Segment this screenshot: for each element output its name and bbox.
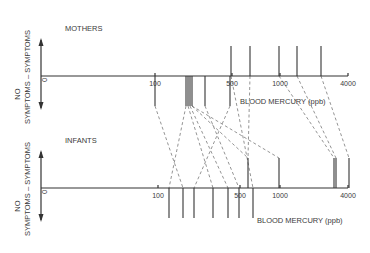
pair-link-dashed (192, 106, 248, 158)
tick-label: 0 (40, 78, 49, 82)
tick-label: 100 (152, 192, 164, 199)
pair-link-dashed (321, 76, 349, 158)
tick-label: 4000 (340, 80, 356, 87)
infants-y-label-line1: NO (13, 200, 22, 211)
pair-link-dashed (155, 106, 183, 188)
mothers-y-label-line1: NO (13, 88, 22, 99)
tick-label: 1000 (272, 192, 288, 199)
mother-infant-mercury-diagram: SYMPTOMS – SYMPTOMSNOMOTHERS010050010004… (0, 0, 370, 253)
pair-link-dashed (248, 76, 250, 158)
mothers-axis-title: BLOOD MERCURY (ppb) (240, 97, 326, 106)
pair-link-dashed (192, 106, 279, 158)
pair-link-dashed (205, 106, 239, 188)
tick-label: 500 (226, 80, 238, 87)
arrow-up-icon (39, 150, 44, 158)
tick-label: 1000 (272, 80, 288, 87)
tick-label: 0 (40, 190, 49, 194)
tick-label: 4000 (340, 192, 356, 199)
arrow-up-icon (39, 38, 44, 46)
diagram-canvas: SYMPTOMS – SYMPTOMSNOMOTHERS010050010004… (0, 0, 370, 253)
infants-title: INFANTS (65, 136, 97, 145)
pair-link-dashed (279, 76, 334, 158)
arrow-down-icon (39, 214, 44, 222)
pair-link-dashed (169, 106, 186, 188)
pair-link-dashed (297, 76, 336, 158)
mothers-y-label-line2: SYMPTOMS – SYMPTOMS (23, 30, 32, 124)
infants-y-label-line2: SYMPTOMS – SYMPTOMS (23, 142, 32, 236)
arrow-down-icon (39, 102, 44, 110)
mothers-title: MOTHERS (65, 24, 103, 33)
tick-label: 500 (234, 192, 246, 199)
infants-axis-title: BLOOD MERCURY (ppb) (257, 216, 343, 225)
